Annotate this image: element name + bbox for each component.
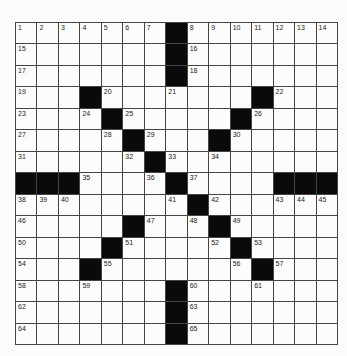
grid-cell[interactable] [295, 152, 315, 172]
grid-cell[interactable]: 55 [102, 259, 122, 279]
grid-cell[interactable] [188, 109, 208, 129]
grid-cell[interactable]: 14 [317, 23, 337, 43]
grid-cell[interactable] [209, 44, 229, 64]
grid-cell[interactable] [209, 109, 229, 129]
grid-cell[interactable]: 2 [37, 23, 57, 43]
grid-cell[interactable] [145, 195, 165, 215]
grid-cell[interactable]: 33 [166, 152, 186, 172]
grid-cell[interactable] [37, 302, 57, 322]
grid-cell[interactable] [231, 152, 251, 172]
grid-cell[interactable] [59, 259, 79, 279]
grid-cell[interactable] [145, 281, 165, 301]
grid-cell[interactable] [59, 109, 79, 129]
grid-cell[interactable] [59, 130, 79, 150]
grid-cell[interactable] [59, 281, 79, 301]
grid-cell[interactable] [123, 66, 143, 86]
grid-cell[interactable] [295, 281, 315, 301]
grid-cell[interactable] [274, 216, 294, 236]
grid-cell[interactable] [274, 130, 294, 150]
grid-cell[interactable] [252, 152, 272, 172]
grid-cell[interactable] [80, 66, 100, 86]
grid-cell[interactable]: 31 [16, 152, 36, 172]
grid-cell[interactable] [102, 281, 122, 301]
grid-cell[interactable]: 41 [166, 195, 186, 215]
grid-cell[interactable]: 5 [102, 23, 122, 43]
grid-cell[interactable] [274, 238, 294, 258]
grid-cell[interactable] [317, 152, 337, 172]
grid-cell[interactable] [166, 238, 186, 258]
grid-cell[interactable]: 21 [166, 87, 186, 107]
grid-cell[interactable] [231, 195, 251, 215]
grid-cell[interactable]: 22 [274, 87, 294, 107]
grid-cell[interactable]: 27 [16, 130, 36, 150]
grid-cell[interactable] [317, 44, 337, 64]
grid-cell[interactable]: 15 [16, 44, 36, 64]
grid-cell[interactable] [274, 302, 294, 322]
grid-cell[interactable] [80, 302, 100, 322]
grid-cell[interactable]: 42 [209, 195, 229, 215]
grid-cell[interactable]: 28 [102, 130, 122, 150]
grid-cell[interactable]: 38 [16, 195, 36, 215]
grid-cell[interactable] [80, 44, 100, 64]
grid-cell[interactable]: 52 [209, 238, 229, 258]
grid-cell[interactable] [317, 324, 337, 344]
grid-cell[interactable]: 17 [16, 66, 36, 86]
grid-cell[interactable]: 54 [16, 259, 36, 279]
grid-cell[interactable] [102, 195, 122, 215]
grid-cell[interactable] [317, 87, 337, 107]
grid-cell[interactable] [188, 87, 208, 107]
grid-cell[interactable] [59, 66, 79, 86]
grid-cell[interactable]: 11 [252, 23, 272, 43]
grid-cell[interactable] [102, 173, 122, 193]
grid-cell[interactable]: 57 [274, 259, 294, 279]
grid-cell[interactable] [123, 44, 143, 64]
grid-cell[interactable] [295, 130, 315, 150]
grid-cell[interactable]: 48 [188, 216, 208, 236]
grid-cell[interactable] [317, 259, 337, 279]
grid-cell[interactable]: 6 [123, 23, 143, 43]
grid-cell[interactable] [252, 302, 272, 322]
grid-cell[interactable] [295, 109, 315, 129]
grid-cell[interactable]: 29 [145, 130, 165, 150]
grid-cell[interactable] [209, 259, 229, 279]
grid-cell[interactable] [59, 216, 79, 236]
grid-cell[interactable] [317, 302, 337, 322]
grid-cell[interactable] [317, 216, 337, 236]
grid-cell[interactable]: 30 [231, 130, 251, 150]
grid-cell[interactable] [166, 259, 186, 279]
grid-cell[interactable] [295, 44, 315, 64]
grid-cell[interactable] [166, 216, 186, 236]
grid-cell[interactable] [37, 238, 57, 258]
grid-cell[interactable] [209, 66, 229, 86]
grid-cell[interactable] [274, 324, 294, 344]
grid-cell[interactable]: 61 [252, 281, 272, 301]
grid-cell[interactable]: 47 [145, 216, 165, 236]
grid-cell[interactable] [274, 281, 294, 301]
grid-cell[interactable] [231, 281, 251, 301]
grid-cell[interactable] [102, 216, 122, 236]
grid-cell[interactable] [295, 259, 315, 279]
grid-cell[interactable]: 45 [317, 195, 337, 215]
grid-cell[interactable] [295, 238, 315, 258]
grid-cell[interactable] [231, 44, 251, 64]
grid-cell[interactable] [252, 195, 272, 215]
grid-cell[interactable] [231, 66, 251, 86]
grid-cell[interactable]: 40 [59, 195, 79, 215]
grid-cell[interactable] [37, 66, 57, 86]
grid-cell[interactable]: 1 [16, 23, 36, 43]
grid-cell[interactable]: 8 [188, 23, 208, 43]
grid-cell[interactable] [274, 66, 294, 86]
grid-cell[interactable]: 60 [188, 281, 208, 301]
grid-cell[interactable] [145, 44, 165, 64]
grid-cell[interactable] [59, 44, 79, 64]
grid-cell[interactable] [166, 109, 186, 129]
grid-cell[interactable]: 10 [231, 23, 251, 43]
grid-cell[interactable] [209, 302, 229, 322]
grid-cell[interactable] [59, 87, 79, 107]
grid-cell[interactable] [231, 324, 251, 344]
grid-cell[interactable]: 39 [37, 195, 57, 215]
grid-cell[interactable]: 4 [80, 23, 100, 43]
grid-cell[interactable] [295, 324, 315, 344]
grid-cell[interactable] [166, 130, 186, 150]
grid-cell[interactable] [295, 216, 315, 236]
